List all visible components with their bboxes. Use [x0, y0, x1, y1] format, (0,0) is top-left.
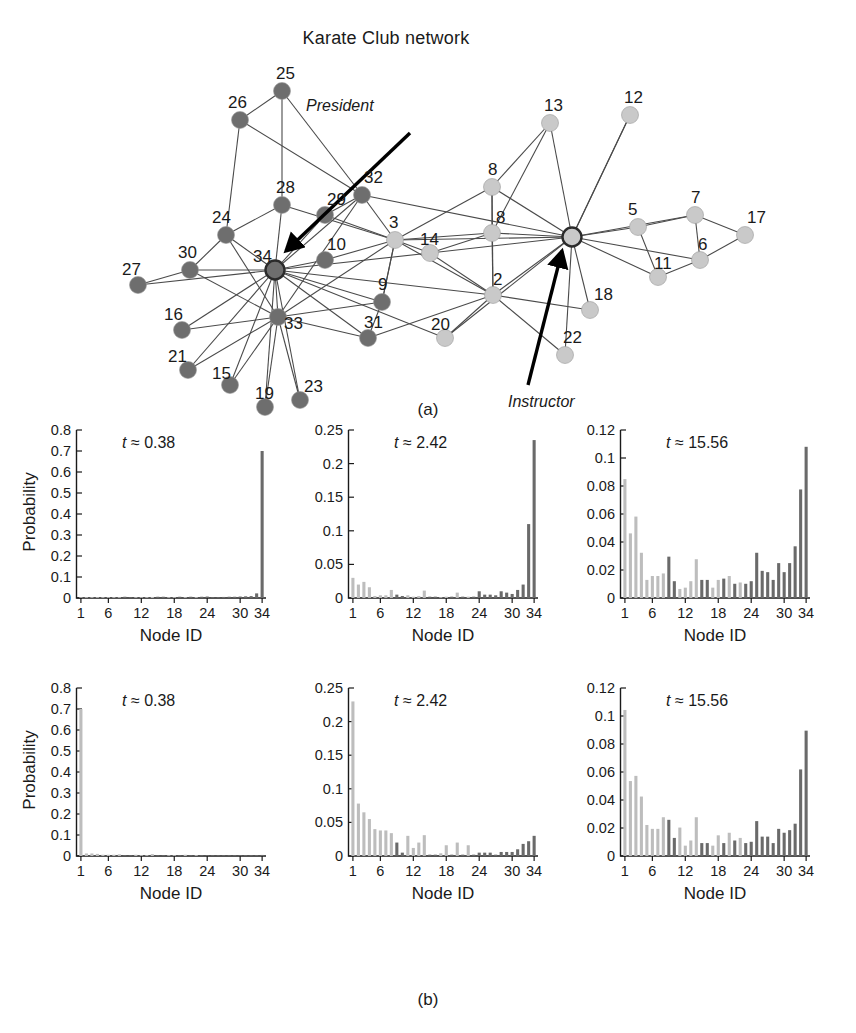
network-node-12[interactable]	[622, 107, 639, 124]
network-node-24[interactable]	[218, 227, 235, 244]
network-node-13[interactable]	[542, 115, 559, 132]
y-tick-label: 0.12	[587, 422, 615, 438]
bar-node-2	[629, 781, 632, 856]
bar-chart-bottom-middle: 00.050.10.150.20.25161218243034t ≈ 2.42N…	[348, 688, 552, 866]
network-node-30[interactable]	[182, 262, 199, 279]
x-tick-label: 24	[743, 863, 759, 879]
bar-node-5	[645, 825, 648, 856]
x-tick-label: 6	[104, 605, 112, 621]
y-tick-label: 0.2	[51, 548, 71, 564]
network-node-25[interactable]	[274, 83, 291, 100]
bar-node-34	[261, 451, 264, 598]
bar-node-12	[684, 588, 687, 598]
bar-node-4	[640, 797, 643, 856]
network-node-9[interactable]	[374, 294, 391, 311]
network-node-2[interactable]	[485, 287, 502, 304]
bar-node-8	[118, 597, 121, 598]
network-node-5[interactable]	[630, 219, 647, 236]
network-node-10[interactable]	[317, 252, 334, 269]
x-tick-label: 30	[232, 605, 248, 621]
x-tick-label: 12	[405, 605, 421, 621]
network-node-8[interactable]	[484, 179, 501, 196]
time-annotation-top-left: t ≈ 0.38	[122, 434, 175, 452]
figure-title: Karate Club network	[0, 28, 856, 49]
bar-node-29	[233, 855, 236, 856]
bar-node-4	[368, 587, 371, 598]
bar-node-17	[711, 846, 714, 856]
x-tick-label: 24	[471, 863, 487, 879]
bar-node-32	[522, 844, 525, 856]
bar-node-3	[90, 597, 93, 598]
network-node-27[interactable]	[130, 277, 147, 294]
bar-node-21	[189, 597, 192, 598]
x-tick-label: 1	[621, 863, 629, 879]
y-tick-label: 0.8	[51, 680, 71, 696]
network-node-17[interactable]	[737, 227, 754, 244]
bar-node-26	[761, 571, 764, 598]
network-node-label-4: 8	[496, 209, 505, 226]
network-node-1[interactable]	[563, 228, 582, 247]
network-node-label-14: 14	[420, 231, 439, 248]
bar-node-24	[750, 842, 753, 856]
x-tick-label: 1	[621, 605, 629, 621]
plot-area-top-middle: 00.050.10.150.20.25161218243034	[348, 430, 552, 608]
bar-node-7	[384, 595, 387, 598]
y-tick-label: 0.02	[587, 562, 615, 578]
network-node-16[interactable]	[174, 322, 191, 339]
bar-node-3	[634, 776, 637, 856]
bar-node-31	[788, 563, 791, 598]
bar-node-21	[461, 855, 464, 856]
bar-node-14	[151, 597, 154, 598]
bar-node-26	[489, 853, 492, 856]
network-node-3[interactable]	[387, 232, 404, 249]
y-tick-label: 0.1	[595, 708, 615, 724]
bar-node-3	[634, 517, 637, 598]
y-tick-label: 0.7	[51, 443, 71, 459]
y-tick-label: 0	[607, 590, 615, 606]
bar-node-24	[478, 591, 481, 598]
bar-node-2	[629, 533, 632, 598]
network-node-22[interactable]	[557, 347, 574, 364]
network-node-28[interactable]	[274, 197, 291, 214]
network-node-6[interactable]	[692, 252, 709, 269]
network-node-31[interactable]	[360, 330, 377, 347]
bar-node-24	[206, 855, 209, 856]
bar-node-29	[505, 852, 508, 856]
bar-node-22	[739, 838, 742, 856]
bar-node-17	[439, 853, 442, 856]
bar-node-7	[112, 597, 115, 598]
bar-node-34	[533, 440, 536, 598]
network-node-label-11: 11	[654, 255, 672, 272]
bar-node-33	[527, 524, 530, 598]
bar-node-16	[706, 580, 709, 598]
network-edge	[572, 237, 658, 277]
y-tick-label: 0	[607, 848, 615, 864]
network-node-4[interactable]	[484, 225, 501, 242]
bar-node-1	[79, 709, 82, 856]
plot-area-top-right: 00.020.040.060.080.10.12161218243034	[620, 430, 824, 608]
x-tick-label: 18	[438, 863, 454, 879]
y-tick-label: 0.04	[587, 792, 615, 808]
plot-area-bottom-middle: 00.050.10.150.20.25161218243034	[348, 688, 552, 866]
time-annotation-bottom-right: t ≈ 15.56	[666, 692, 728, 710]
bar-node-32	[522, 585, 525, 598]
network-edge	[572, 237, 700, 260]
network-node-32[interactable]	[354, 187, 371, 204]
bar-node-24	[750, 581, 753, 598]
y-axis-label-top-left: Probability	[20, 462, 40, 562]
x-tick-label: 6	[104, 863, 112, 879]
bar-node-11	[134, 855, 137, 856]
network-edge	[275, 270, 300, 400]
network-node-18[interactable]	[582, 302, 599, 319]
x-tick-label: 12	[405, 863, 421, 879]
bar-node-17	[711, 588, 714, 598]
bar-node-8	[390, 590, 393, 598]
network-node-7[interactable]	[687, 207, 704, 224]
bar-node-12	[412, 848, 415, 856]
y-tick-label: 0.15	[315, 747, 343, 763]
network-node-26[interactable]	[232, 112, 249, 129]
bar-node-34	[533, 836, 536, 856]
y-tick-label: 0.12	[587, 680, 615, 696]
bar-node-29	[777, 563, 780, 598]
x-tick-label: 12	[677, 863, 693, 879]
